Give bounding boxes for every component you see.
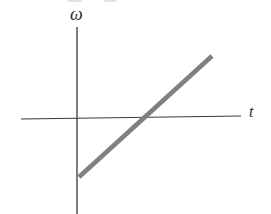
y-axis-label-omega: ω: [70, 5, 83, 23]
x-axis-line: [21, 116, 241, 119]
x-axis-label-t: t: [249, 104, 253, 120]
figure-root: ω t: [0, 0, 271, 214]
plot-canvas: [0, 0, 271, 214]
